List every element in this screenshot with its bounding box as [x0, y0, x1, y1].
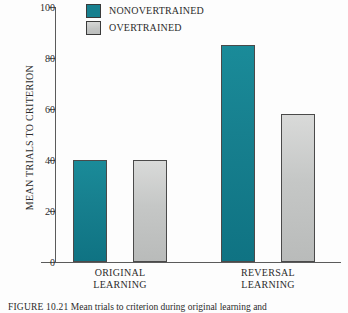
figure-caption-number: FIGURE 10.21: [8, 302, 68, 312]
x-axis-line: [41, 262, 341, 263]
bar-reversal-nonovertrained: [221, 45, 255, 262]
bar-original-nonovertrained: [73, 160, 107, 262]
plot-area: 100 80 60 40 20 0 MEAN TRIALS TO CRITERI…: [0, 0, 348, 290]
figure-container: NONOVERTRAINED OVERTRAINED 100 80 60 40: [0, 0, 348, 313]
bar-original-overtrained: [133, 160, 167, 262]
bars-layer: [0, 0, 348, 262]
figure-caption: FIGURE 10.21 Mean trials to criterion du…: [8, 301, 346, 313]
bar-reversal-overtrained: [281, 114, 315, 262]
group-label-original-learning: ORIGINAL LEARNING: [55, 267, 185, 290]
y-tick-0: 0: [0, 262, 55, 263]
group-label-original-line1: ORIGINAL: [55, 267, 185, 279]
group-label-reversal-learning: REVERSAL LEARNING: [203, 267, 333, 290]
group-label-original-line2: LEARNING: [55, 279, 185, 291]
figure-caption-text: Mean trials to criterion during original…: [71, 302, 267, 312]
group-label-reversal-line2: LEARNING: [203, 279, 333, 291]
group-label-reversal-line1: REVERSAL: [203, 267, 333, 279]
